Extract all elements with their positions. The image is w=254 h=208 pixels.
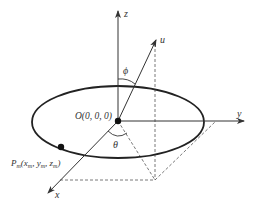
theta-label: θ bbox=[113, 139, 118, 150]
point-pm bbox=[58, 144, 64, 150]
phi-label: ϕ bbox=[123, 65, 128, 76]
origin-label: O(0, 0, 0) bbox=[75, 111, 112, 122]
x-axis-label: x bbox=[54, 189, 60, 200]
phi-arc bbox=[118, 79, 135, 84]
spherical-coordinate-diagram: z u y x ϕ θ O(0, 0, 0) Pm(xm, ym, zm) bbox=[0, 0, 254, 208]
y-projection-line bbox=[155, 121, 216, 180]
z-axis-label: z bbox=[123, 8, 128, 19]
theta-arc bbox=[108, 131, 127, 136]
origin-point bbox=[115, 118, 121, 124]
point-pm-label: Pm(xm, ym, zm) bbox=[10, 158, 60, 169]
y-axis-label: y bbox=[236, 108, 242, 119]
origin-projection-line bbox=[118, 121, 155, 180]
u-vector bbox=[118, 40, 156, 121]
u-axis-label: u bbox=[160, 34, 165, 45]
